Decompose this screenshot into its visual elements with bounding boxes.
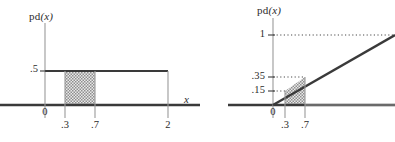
- x-tick-label-right-2: .7: [295, 119, 315, 130]
- y-axis-title-right-var: (x): [268, 4, 281, 16]
- density-line-right: [273, 35, 395, 105]
- x-axis-variable-label-left: x: [184, 93, 189, 105]
- y-axis-title-left: pd(x): [29, 10, 53, 22]
- y-axis-title-left-text: pd: [29, 10, 40, 22]
- y-axis-title-right-text: pd: [257, 4, 268, 16]
- x-tick-label-right-0: 0: [263, 106, 283, 117]
- x-tick-label-left-3: 2: [158, 119, 178, 130]
- y-tick-label-left-0: .5: [22, 63, 38, 74]
- x-tick-label-right-1: .3: [275, 119, 295, 130]
- x-tick-label-left-2: .7: [85, 119, 105, 130]
- y-axis-title-right: pd(x): [257, 4, 281, 16]
- probability-density-figure: pd(x) .5 0 .3 .7 2 x: [0, 0, 395, 142]
- shaded-region-left: [65, 71, 95, 105]
- y-tick-label-right-015: .15: [243, 84, 265, 95]
- x-tick-label-left-1: .3: [55, 119, 75, 130]
- chart-panel-right: pd(x) 1 .35 .15 0 .3 .7: [195, 0, 395, 142]
- y-axis-title-left-var: (x): [40, 10, 53, 22]
- x-tick-label-left-0: 0: [35, 106, 55, 117]
- chart-panel-left: pd(x) .5 0 .3 .7 2 x: [0, 0, 200, 142]
- y-tick-label-right-1: 1: [249, 28, 265, 39]
- y-tick-label-right-035: .35: [243, 70, 265, 81]
